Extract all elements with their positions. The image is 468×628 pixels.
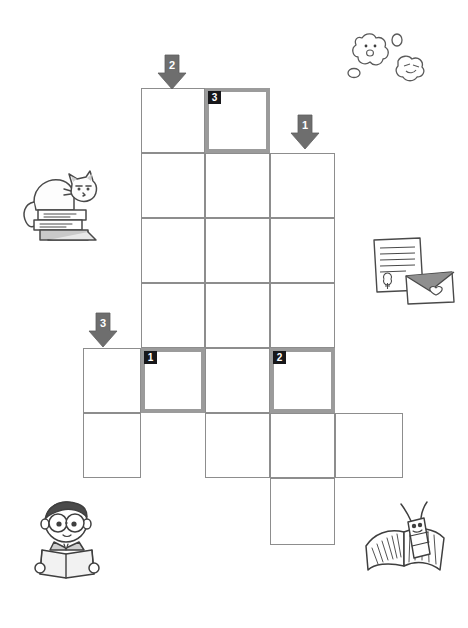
- bookworm-icon: [360, 500, 456, 580]
- bookworm-illustration: [360, 500, 456, 580]
- crossword-worksheet: 312 213: [0, 0, 468, 628]
- boy-reading-icon: [26, 498, 110, 582]
- clue-arrow-label: 2: [157, 59, 187, 71]
- clue-arrow-2: 2: [157, 54, 187, 90]
- letter-envelope-illustration: [366, 234, 458, 310]
- clue-arrow-label: 3: [88, 317, 118, 329]
- clue-number-badge: 1: [144, 351, 157, 364]
- clue-arrow-3: 3: [88, 312, 118, 348]
- clue-arrow-1: 1: [290, 114, 320, 150]
- boy-reading-illustration: [26, 498, 110, 582]
- crossword-cell[interactable]: 2: [270, 348, 335, 413]
- flower-clouds-illustration: [340, 28, 436, 92]
- clue-number-badge: 2: [273, 351, 286, 364]
- clue-arrow-label: 1: [290, 119, 320, 131]
- cat-on-books-illustration: [14, 162, 106, 250]
- letter-envelope-icon: [366, 234, 458, 310]
- crossword-cell[interactable]: 1: [141, 348, 205, 413]
- cat-on-books-icon: [14, 162, 106, 250]
- crossword-cell[interactable]: 3: [205, 88, 270, 153]
- clue-number-badge: 3: [208, 91, 221, 104]
- flower-clouds-icon: [340, 28, 436, 92]
